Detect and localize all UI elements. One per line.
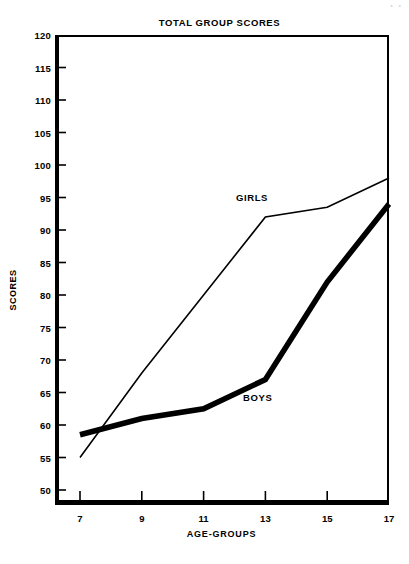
plot-area: [55, 35, 389, 505]
series-label-boys: BOYS: [243, 392, 272, 403]
y-tick-label: 120: [19, 30, 51, 41]
y-tick-label: 50: [19, 485, 51, 496]
y-axis-tick-labels: 12011511010510095908580757065605550: [13, 0, 51, 564]
page-corner-artifact: • •: [390, 2, 403, 9]
chart-title: TOTAL GROUP SCORES: [0, 17, 409, 28]
y-tick-label: 90: [19, 225, 51, 236]
y-tick-label: 60: [19, 420, 51, 431]
x-tick-label: 9: [127, 513, 157, 524]
x-tick-label: 7: [65, 513, 95, 524]
y-tick-label: 115: [19, 62, 51, 73]
y-tick-label: 55: [19, 452, 51, 463]
y-tick-label: 75: [19, 322, 51, 333]
x-tick-label: 13: [250, 513, 280, 524]
y-tick-label: 95: [19, 192, 51, 203]
y-tick-label: 65: [19, 387, 51, 398]
y-tick-label: 100: [19, 160, 51, 171]
y-tick-label: 85: [19, 257, 51, 268]
x-axis-label: AGE-GROUPS: [0, 529, 409, 539]
y-tick-label: 110: [19, 95, 51, 106]
y-tick-label: 70: [19, 355, 51, 366]
x-tick-label: 15: [312, 513, 342, 524]
y-tick-label: 105: [19, 127, 51, 138]
chart-page: • • TOTAL GROUP SCORES 12011511010510095…: [0, 0, 409, 564]
x-tick-label: 11: [189, 513, 219, 524]
y-tick-label: 80: [19, 290, 51, 301]
series-label-girls: GIRLS: [236, 192, 268, 203]
y-axis-label: SCORES: [8, 260, 18, 320]
x-tick-label: 17: [374, 513, 404, 524]
